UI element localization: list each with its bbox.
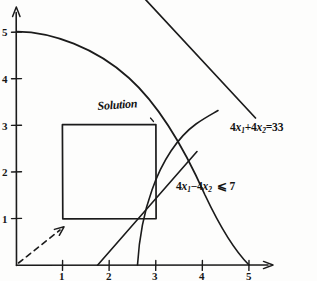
x-axis <box>17 261 274 268</box>
inequality-label-difference: 4x1−4x2⩽7 <box>176 181 235 193</box>
solution-label: Solution <box>97 97 137 112</box>
x-tick-label-5: 5 <box>246 271 252 281</box>
x-tick-label-4: 4 <box>199 271 205 281</box>
y-tick-label-2: 2 <box>2 167 8 178</box>
direction-arrow-dashed <box>19 227 65 263</box>
y-tick-label-1: 1 <box>2 214 8 225</box>
y-tick-label-5: 5 <box>2 27 8 38</box>
constraint-line-sum <box>145 0 256 118</box>
x-tick-label-1: 1 <box>59 271 65 281</box>
equation-rhs: 33 <box>272 121 283 133</box>
y-axis <box>13 7 20 266</box>
graph-canvas <box>0 0 317 281</box>
equation-label-sum: 4x1+4x2=33 <box>230 122 283 134</box>
y-tick-label-4: 4 <box>2 74 8 85</box>
solution-label-underline <box>151 118 154 122</box>
constraint-line-difference <box>98 152 198 266</box>
inequality-relation: ⩽ <box>212 180 227 192</box>
inequality-rhs: 7 <box>227 180 236 192</box>
hand-drawn-graph-figure: 1 2 3 4 5 1 2 3 4 5 Solution 4x1+4x2=33 … <box>0 0 317 281</box>
y-tick-label-3: 3 <box>2 121 8 132</box>
solution-region-square <box>62 125 156 219</box>
x-tick-label-3: 3 <box>152 271 158 281</box>
circle-arc-curve <box>18 32 250 265</box>
x-tick-label-2: 2 <box>106 271 112 281</box>
